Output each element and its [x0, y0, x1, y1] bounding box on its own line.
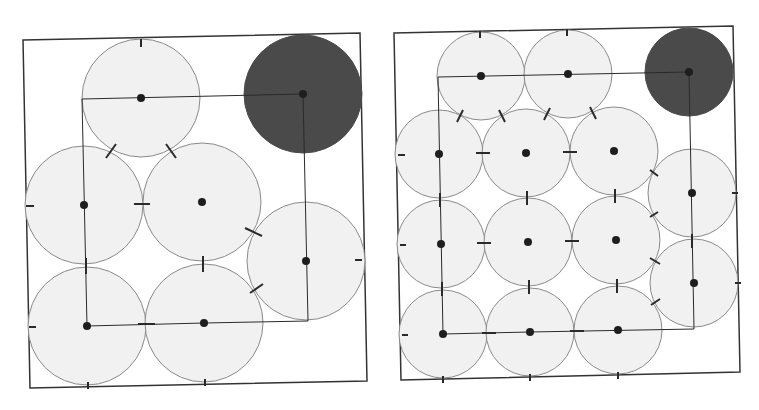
center-dot [299, 90, 307, 98]
circle-packing-diagram [0, 0, 759, 410]
center-dot [524, 238, 532, 246]
center-dot [564, 70, 572, 78]
center-dot [685, 68, 693, 76]
center-dot [302, 257, 310, 265]
left-packing-panel [23, 33, 367, 389]
center-dot [80, 201, 88, 209]
center-dot [200, 319, 208, 327]
center-dot [137, 94, 145, 102]
center-dot [610, 147, 618, 155]
center-dot [522, 149, 530, 157]
center-dot [435, 150, 443, 158]
center-dot [437, 240, 445, 248]
center-dot [477, 72, 485, 80]
center-dot [612, 236, 620, 244]
center-dot [198, 198, 206, 206]
center-dot [526, 328, 534, 336]
center-dot [83, 322, 91, 330]
center-dot [439, 330, 447, 338]
center-dot [690, 279, 698, 287]
center-dot [688, 189, 696, 197]
right-packing-panel [394, 26, 741, 383]
center-dot [614, 326, 622, 334]
